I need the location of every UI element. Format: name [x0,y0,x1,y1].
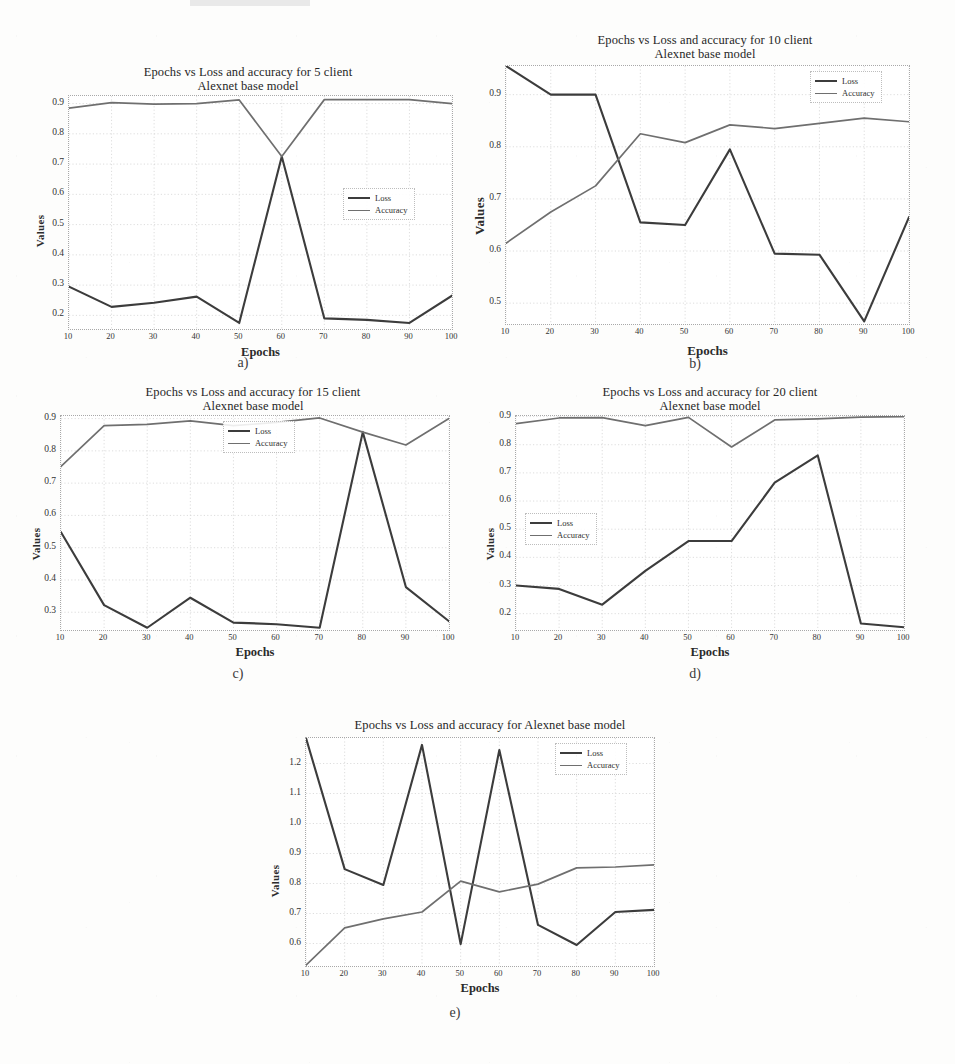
x-tick-label: 40 [177,632,201,642]
legend-label: Loss [587,748,603,758]
x-axis-label-d: Epochs [515,645,905,660]
legend-c[interactable]: LossAccuracy [223,421,295,453]
panel-d: Epochs vs Loss and accuracy for 20 clien… [470,383,930,693]
x-tick-label: 20 [91,632,115,642]
y-tick-label: 0.8 [26,444,56,454]
x-tick-label: 10 [293,968,317,978]
x-tick-label: 100 [641,968,665,978]
chart-a: Values Epochs 0.20.30.40.50.60.70.80.910… [18,60,468,350]
y-tick-label: 0.9 [471,88,501,98]
y-tick-label: 0.7 [471,192,501,202]
legend-line-icon [815,93,837,94]
y-tick-label: 0.5 [34,218,64,228]
chart-d: Values Epochs 0.20.30.40.50.60.70.80.910… [470,383,930,663]
x-tick-label: 30 [141,331,165,341]
x-tick-label: 90 [602,968,626,978]
panel-b: Epochs vs Loss and accuracy for 10 clien… [455,28,935,380]
scan-artifact [190,0,310,6]
x-tick-label: 50 [226,331,250,341]
x-tick-label: 10 [48,632,72,642]
x-tick-label: 30 [370,968,394,978]
legend-line-icon [228,430,250,432]
legend-item-accuracy[interactable]: Accuracy [228,437,288,449]
legend-item-loss[interactable]: Loss [815,75,875,87]
x-tick-label: 10 [503,632,527,642]
y-tick-label: 0.6 [471,244,501,254]
y-tick-label: 0.5 [481,522,511,532]
legend-label: Accuracy [587,760,620,770]
legend-item-accuracy[interactable]: Accuracy [560,759,620,771]
caption-d: d) [645,666,745,682]
y-tick-label: 0.2 [481,607,511,617]
x-tick-label: 70 [762,326,786,336]
x-tick-label: 100 [891,632,915,642]
legend-a[interactable]: LossAccuracy [343,188,415,220]
x-tick-label: 60 [486,968,510,978]
y-tick-label: 0.2 [34,308,64,318]
x-tick-label: 40 [632,632,656,642]
x-tick-label: 90 [393,632,417,642]
x-tick-label: 100 [896,326,920,336]
panel-a: Epochs vs Loss and accuracy for 5 client… [18,60,468,380]
legend-line-icon [560,752,582,754]
legend-line-icon [228,443,250,444]
x-tick-label: 50 [220,632,244,642]
legend-item-accuracy[interactable]: Accuracy [348,204,408,216]
legend-item-loss[interactable]: Loss [228,425,288,437]
legend-item-loss[interactable]: Loss [348,192,408,204]
legend-b[interactable]: LossAccuracy [810,71,882,103]
x-tick-label: 80 [805,632,829,642]
legend-item-accuracy[interactable]: Accuracy [815,87,875,99]
y-tick-label: 0.4 [481,550,511,560]
x-axis-label-c: Epochs [60,645,450,660]
legend-line-icon [348,197,370,199]
x-tick-label: 70 [307,632,331,642]
y-tick-label: 0.6 [271,937,301,947]
x-tick-label: 60 [719,632,743,642]
legend-line-icon [530,522,552,524]
x-tick-label: 50 [448,968,472,978]
chart-c: Values Epochs 0.30.40.50.60.70.80.910203… [18,383,468,663]
y-tick-label: 0.7 [26,476,56,486]
x-tick-label: 30 [583,326,607,336]
y-tick-label: 1.1 [271,787,301,797]
x-tick-label: 10 [493,326,517,336]
legend-item-accuracy[interactable]: Accuracy [530,529,590,541]
caption-c: c) [188,666,288,682]
y-tick-label: 0.7 [271,907,301,917]
legend-label: Accuracy [255,438,288,448]
y-tick-label: 0.3 [34,278,64,288]
caption-a: a) [193,355,293,371]
legend-label: Loss [255,426,271,436]
legend-item-loss[interactable]: Loss [560,747,620,759]
x-tick-label: 80 [354,331,378,341]
y-tick-label: 0.7 [34,157,64,167]
legend-line-icon [348,210,370,211]
legend-label: Accuracy [375,205,408,215]
y-tick-label: 0.3 [481,579,511,589]
legend-label: Loss [375,193,391,203]
x-tick-label: 60 [269,331,293,341]
x-tick-label: 90 [848,632,872,642]
caption-b: b) [645,356,745,372]
y-tick-label: 0.9 [271,847,301,857]
legend-e[interactable]: LossAccuracy [555,743,627,775]
x-tick-label: 40 [184,331,208,341]
y-tick-label: 0.8 [34,127,64,137]
x-tick-label: 80 [806,326,830,336]
y-tick-label: 0.5 [26,541,56,551]
figure-page: Epochs vs Loss and accuracy for 5 client… [0,0,955,1064]
x-tick-label: 60 [717,326,741,336]
legend-item-loss[interactable]: Loss [530,517,590,529]
x-tick-label: 80 [350,632,374,642]
chart-b: Values Epochs 0.50.60.70.80.910203040506… [455,28,935,350]
x-tick-label: 50 [672,326,696,336]
x-tick-label: 10 [56,331,80,341]
y-tick-label: 0.7 [481,466,511,476]
legend-line-icon [815,80,837,82]
x-tick-label: 90 [851,326,875,336]
legend-d[interactable]: LossAccuracy [525,513,597,545]
y-tick-label: 0.3 [26,605,56,615]
x-tick-label: 20 [99,331,123,341]
panel-e: Epochs vs Loss and accuracy for Alexnet … [250,715,710,1035]
